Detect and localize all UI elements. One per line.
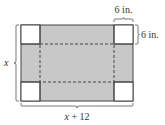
width-brace [21, 103, 133, 108]
corner-width-brace [114, 18, 133, 23]
width-label: x + 12 [63, 111, 89, 122]
corner-square-top-right [114, 25, 133, 44]
corner-square-bottom-left [21, 82, 40, 101]
corner-width-label: 6 in. [115, 4, 133, 15]
height-brace [14, 25, 19, 101]
corner-height-label: 6 in. [141, 29, 159, 40]
corner-square-top-left [21, 25, 40, 44]
box-net-diagram: 6 in. 6 in. x x + 12 [0, 0, 165, 125]
corner-square-bottom-right [114, 82, 133, 101]
height-label: x [3, 57, 9, 68]
corner-height-brace [135, 25, 140, 44]
